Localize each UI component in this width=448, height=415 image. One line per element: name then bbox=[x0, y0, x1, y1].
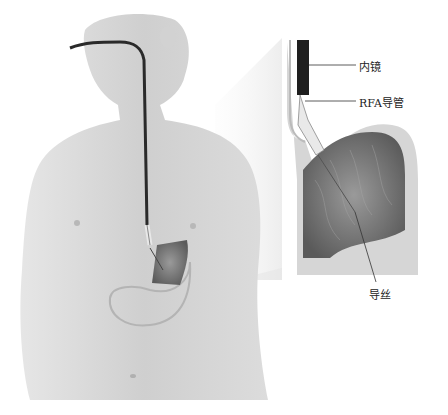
label-guidewire: 导丝 bbox=[369, 286, 391, 302]
zoom-inset bbox=[287, 40, 418, 282]
label-rfa-catheter: RFA导管 bbox=[359, 94, 404, 110]
label-endoscope: 内镜 bbox=[359, 58, 381, 74]
figure: 内镜 RFA导管 导丝 bbox=[0, 0, 448, 415]
endoscope-zoom bbox=[297, 40, 309, 95]
